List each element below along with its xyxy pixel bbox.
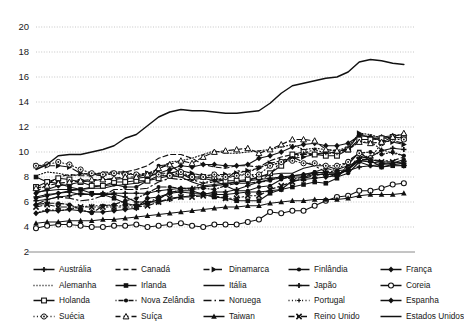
legend-label: Portugal: [314, 296, 345, 305]
legend-label: Canadá: [141, 265, 170, 274]
y-tick-label: 4: [24, 221, 29, 232]
legend-label: Suécia: [59, 312, 84, 321]
legend-label: Austrália: [59, 265, 91, 274]
x-tick-label: 2010: [360, 256, 380, 258]
legend-swatch: [288, 281, 310, 290]
legend-swatch: [288, 312, 310, 321]
series-estados-unidos: [36, 60, 404, 170]
legend-label: Holanda: [59, 296, 90, 305]
figure-caption: [0, 323, 425, 330]
legend-row: AustráliaCanadáDinamarcaFinlândiaFrança: [0, 262, 425, 278]
legend-item-espanha[interactable]: Espanha: [380, 296, 439, 305]
legend-item-finlandia[interactable]: Finlândia: [288, 265, 380, 274]
y-tick-label: 16: [18, 71, 29, 82]
legend-swatch: [33, 281, 55, 290]
legend-swatch: [288, 265, 310, 274]
legend-label: Itália: [229, 281, 247, 290]
legend-item-japao[interactable]: Japão: [288, 281, 380, 290]
legend-swatch: [33, 265, 55, 274]
legend-swatch: [115, 265, 137, 274]
data-series-layer: [33, 60, 407, 231]
legend-item-portugal[interactable]: Portugal: [288, 296, 380, 305]
legend-swatch: [203, 265, 225, 274]
legend-item-noruega[interactable]: Noruega: [203, 296, 288, 305]
legend-label: Dinamarca: [229, 265, 269, 274]
legend-label: Suíça: [141, 312, 162, 321]
chart-legend: AustráliaCanadáDinamarcaFinlândiaFrançaA…: [0, 262, 425, 324]
legend-label: Espanha: [406, 296, 439, 305]
legend-swatch: [380, 296, 402, 305]
x-tick-label: 2007: [327, 256, 347, 258]
legend-item-nova-zelandia[interactable]: Nova Zelândia: [115, 296, 203, 305]
y-tick-label: 14: [18, 96, 29, 107]
legend-item-coreia[interactable]: Coreia: [380, 281, 430, 290]
legend-label: Nova Zelândia: [141, 296, 195, 305]
legend-label: Coreia: [406, 281, 430, 290]
y-tick-label: 6: [24, 196, 29, 207]
legend-swatch: [380, 265, 402, 274]
legend-swatch: [115, 281, 137, 290]
y-axis-tick-labels: 2468101214161820: [18, 21, 29, 257]
legend-item-franca[interactable]: França: [380, 265, 432, 274]
x-tick-label: 1986: [93, 256, 113, 258]
x-tick-label: 1980: [26, 256, 46, 258]
legend-item-dinamarca[interactable]: Dinamarca: [203, 265, 288, 274]
legend-swatch: [203, 281, 225, 290]
x-tick-label: 1992: [160, 256, 180, 258]
y-tick-label: 10: [18, 146, 29, 157]
legend-row: HolandaNova ZelândiaNoruegaPortugalEspan…: [0, 293, 425, 309]
legend-swatch: [115, 296, 137, 305]
x-axis-tick-labels: 1980198319861989199219951998200120042007…: [26, 256, 414, 258]
legend-swatch: [203, 312, 225, 321]
legend-item-alemanha[interactable]: Alemanha: [33, 281, 115, 290]
legend-swatch: [115, 312, 137, 321]
x-tick-label: 1998: [227, 256, 247, 258]
y-tick-label: 8: [24, 171, 29, 182]
legend-item-reino-unido[interactable]: Reino Unido: [288, 312, 380, 321]
x-tick-label: 1983: [59, 256, 79, 258]
legend-label: Irlanda: [141, 281, 166, 290]
x-tick-label: 2001: [260, 256, 280, 258]
legend-label: Estados Unidos: [406, 312, 464, 321]
legend-label: Japão: [314, 281, 337, 290]
legend-item-canada[interactable]: Canadá: [115, 265, 203, 274]
line-chart-svg: 2468101214161820 19801983198619891992199…: [0, 0, 425, 258]
legend-item-suica[interactable]: Suíça: [115, 312, 203, 321]
legend-swatch: [380, 312, 402, 321]
x-tick-label: 1995: [193, 256, 213, 258]
x-tick-label: 1989: [126, 256, 146, 258]
legend-item-estados-unidos[interactable]: Estados Unidos: [380, 312, 464, 321]
legend-swatch: [33, 312, 55, 321]
x-tick-label: 2004: [294, 256, 314, 258]
legend-label: França: [406, 265, 432, 274]
legend-swatch: [33, 296, 55, 305]
legend-item-irlanda[interactable]: Irlanda: [115, 281, 203, 290]
y-tick-label: 20: [18, 21, 29, 32]
legend-item-holanda[interactable]: Holanda: [33, 296, 115, 305]
legend-label: Alemanha: [59, 281, 96, 290]
legend-item-australia[interactable]: Austrália: [33, 265, 115, 274]
legend-label: Taiwan: [229, 312, 255, 321]
legend-item-italia[interactable]: Itália: [203, 281, 288, 290]
legend-item-suecia[interactable]: Suécia: [33, 312, 115, 321]
legend-row: AlemanhaIrlandaItáliaJapãoCoreia: [0, 278, 425, 294]
legend-label: Finlândia: [314, 265, 348, 274]
legend-label: Reino Unido: [314, 312, 360, 321]
legend-swatch: [380, 281, 402, 290]
x-tick-label: 2013: [394, 256, 414, 258]
legend-item-taiwan[interactable]: Taiwan: [203, 312, 288, 321]
legend-swatch: [288, 296, 310, 305]
plot-area: 2468101214161820 19801983198619891992199…: [0, 0, 425, 258]
legend-swatch: [203, 296, 225, 305]
y-tick-label: 12: [18, 121, 29, 132]
legend-row: SuéciaSuíçaTaiwanReino UnidoEstados Unid…: [0, 309, 425, 325]
legend-label: Noruega: [229, 296, 261, 305]
y-tick-label: 18: [18, 46, 29, 57]
